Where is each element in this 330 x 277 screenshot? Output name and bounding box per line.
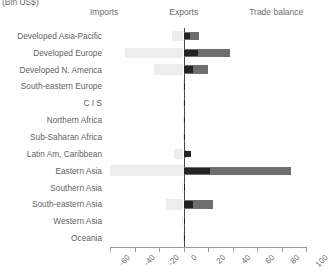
bar-trade-balance — [184, 83, 185, 89]
chart-legend: Imports Exports Trade balance — [58, 7, 303, 17]
category-label: Developed Asia-Pacific — [17, 31, 102, 41]
bar-trade-balance — [184, 168, 211, 174]
x-tick-label: 60 — [264, 253, 277, 266]
x-tick — [282, 247, 283, 252]
x-tick-label: 40 — [239, 253, 252, 266]
bar-imports — [110, 165, 184, 175]
x-tick — [159, 247, 160, 252]
bar-trade-balance — [184, 33, 190, 39]
category-label: Developed N. America — [19, 65, 102, 75]
category-label: Oceania — [71, 233, 102, 243]
x-tick-label: -40 — [142, 253, 157, 268]
x-tick-label: -60 — [117, 253, 132, 268]
x-tick — [306, 247, 307, 252]
category-label: South-eastern Europe — [21, 81, 102, 91]
x-tick — [257, 247, 258, 252]
legend-swatch-exports-icon — [137, 11, 163, 13]
bar-imports — [166, 199, 183, 209]
bar-trade-balance — [184, 117, 185, 123]
x-tick — [110, 247, 111, 252]
bar-imports — [172, 31, 183, 41]
legend-label-exports: Exports — [169, 7, 198, 17]
legend-entry-trade-balance[interactable]: Trade balance — [217, 7, 303, 17]
category-label: C I S — [84, 98, 102, 108]
x-tick-label: 0 — [189, 253, 199, 263]
category-label: Eastern Asia — [55, 166, 102, 176]
x-tick-label: 80 — [288, 253, 301, 266]
bar-trade-balance — [184, 235, 185, 241]
bar-trade-balance — [184, 66, 194, 72]
category-axis-labels: Developed Asia-PacificDeveloped EuropeDe… — [0, 28, 106, 247]
x-tick-label: 20 — [215, 253, 228, 266]
plot-area — [110, 28, 306, 247]
category-label: South-eastern Asia — [32, 199, 102, 209]
x-tick — [135, 247, 136, 252]
category-label: Northern Africa — [47, 115, 102, 125]
bar-trade-balance — [184, 201, 194, 207]
legend-label-trade-balance: Trade balance — [249, 7, 303, 17]
bar-trade-balance — [184, 100, 185, 106]
category-label: Developed Europe — [33, 48, 102, 58]
x-tick-label: 100 — [314, 253, 330, 269]
bar-trade-balance — [184, 218, 185, 224]
bar-imports — [125, 48, 184, 58]
category-label: Western Asia — [53, 216, 102, 226]
bar-imports — [154, 64, 183, 74]
legend-label-imports: Imports — [90, 7, 118, 17]
x-tick — [208, 247, 209, 252]
legend-entry-exports[interactable]: Exports — [137, 7, 198, 17]
legend-swatch-trade-balance-icon — [217, 11, 243, 14]
bar-imports — [174, 149, 184, 159]
category-label: Latin Am, Caribbean — [27, 149, 102, 159]
legend-entry-imports[interactable]: Imports — [58, 7, 118, 17]
bar-trade-balance — [184, 134, 185, 140]
bar-trade-balance — [184, 50, 199, 56]
x-tick-label: -20 — [166, 253, 181, 268]
bar-trade-balance — [184, 184, 185, 190]
bar-trade-balance — [184, 151, 191, 157]
x-tick — [233, 247, 234, 252]
legend-swatch-imports-icon — [58, 11, 84, 13]
category-label: Southern Asia — [50, 183, 102, 193]
x-tick — [184, 247, 185, 252]
category-label: Sub-Saharan Africa — [30, 132, 102, 142]
chart-unit-title: (Bln US$) — [2, 0, 39, 7]
